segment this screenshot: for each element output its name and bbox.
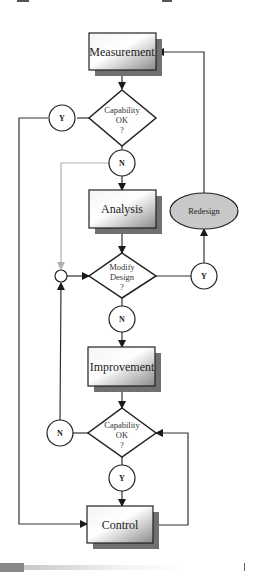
capability2-line3: ? [120, 440, 124, 450]
process-box-control: Control [87, 506, 159, 549]
arrow-yes-to-control [19, 118, 87, 524]
connector-yes-cap1: Y [49, 105, 75, 131]
modify-yes-label: Y [201, 272, 207, 281]
improvement-label: Improvement [90, 360, 155, 374]
junction-circle [55, 270, 67, 282]
process-box-measurement: Measurement [89, 33, 162, 76]
capability1-line1: Capability [104, 105, 140, 115]
cropped-text-fragment [17, 0, 172, 2]
cap2-no-label: N [57, 429, 63, 438]
measurement-label: Measurement [89, 45, 155, 59]
modify-no-label: N [119, 315, 125, 324]
decision-modify-design: Modify Design ? [89, 253, 156, 298]
process-box-improvement: Improvement [88, 347, 161, 392]
terminal-redesign: Redesign [170, 193, 238, 229]
arrow-redesign-to-measurement [157, 52, 204, 193]
connector-no-cap2: N [47, 420, 73, 446]
modify-line1: Modify [109, 262, 135, 272]
decision-capability-1: Capability OK ? [89, 90, 156, 146]
arrow-no-to-junction [60, 283, 61, 420]
connector-no-modify: N [109, 306, 135, 332]
capability2-line2: OK [116, 430, 129, 440]
process-box-analysis: Analysis [89, 190, 162, 234]
analysis-label: Analysis [101, 202, 143, 216]
capability1-line3: ? [120, 125, 124, 135]
arrow-control-loop-to-capability [153, 433, 188, 525]
capability2-line1: Capability [104, 420, 140, 430]
connector-no-cap1: N [109, 150, 135, 176]
decision-capability-2: Capability OK ? [88, 408, 156, 457]
capability1-line2: OK [116, 115, 129, 125]
redesign-label: Redesign [188, 206, 220, 216]
footer-bar [0, 563, 245, 572]
connector-yes-modify: Y [191, 263, 217, 289]
connector-yes-cap2: Y [109, 465, 135, 491]
cap1-no-label: N [119, 159, 125, 168]
cap1-yes-label: Y [59, 114, 65, 123]
control-label: Control [102, 518, 139, 532]
flowchart: Measurement Capability OK ? Y N Analysis… [0, 0, 253, 573]
modify-line3: ? [120, 282, 124, 292]
modify-line2: Design [110, 272, 135, 282]
cap2-yes-label: Y [119, 474, 125, 483]
